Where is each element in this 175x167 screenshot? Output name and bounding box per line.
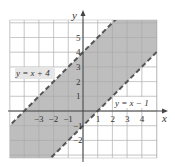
y-tick-label: 2 bbox=[76, 77, 81, 87]
y-axis-arrow-icon bbox=[81, 10, 86, 16]
x-tick-label: −1 bbox=[63, 114, 73, 124]
x-tick-label: −3 bbox=[34, 114, 44, 124]
y-axis-label: y bbox=[71, 9, 77, 21]
y-tick-label: 4 bbox=[76, 47, 81, 57]
x-tick-label: 3 bbox=[125, 114, 130, 124]
x-tick-label: 1 bbox=[96, 114, 101, 124]
y-tick-label: 3 bbox=[76, 62, 81, 72]
upper-line-label-text: y = x + 4 bbox=[15, 68, 50, 78]
y-tick-label: −1 bbox=[73, 121, 83, 131]
x-tick-label: 4 bbox=[140, 114, 145, 124]
y-tick-label: 1 bbox=[76, 91, 81, 101]
shaded-region bbox=[0, 0, 171, 167]
x-tick-label: −2 bbox=[49, 114, 59, 124]
y-tick-label: 5 bbox=[76, 33, 81, 43]
x-axis-label: x bbox=[161, 112, 167, 124]
y-tick-label: −2 bbox=[73, 135, 83, 145]
x-tick-label: 2 bbox=[110, 114, 115, 124]
lower-line-label-text: y = x − 1 bbox=[114, 98, 149, 108]
lower-line-label: y = x − 1 bbox=[114, 98, 149, 108]
inequality-graph: −3−2−11234−2−112345 y x y = x + 4 y = x … bbox=[0, 0, 175, 167]
shaded-band bbox=[0, 0, 171, 167]
upper-line-label: y = x + 4 bbox=[15, 68, 50, 78]
